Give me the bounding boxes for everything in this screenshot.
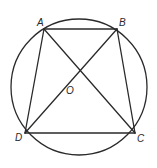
- label-D: D: [15, 132, 22, 143]
- label-C: C: [137, 133, 145, 144]
- label-O: O: [66, 85, 74, 96]
- segment-AC: [44, 29, 135, 133]
- label-A: A: [36, 17, 44, 28]
- geometry-diagram: A B C D O: [0, 0, 157, 168]
- segments: [25, 29, 135, 133]
- label-B: B: [119, 17, 126, 28]
- segment-BD: [25, 29, 117, 133]
- segment-DA: [25, 29, 44, 133]
